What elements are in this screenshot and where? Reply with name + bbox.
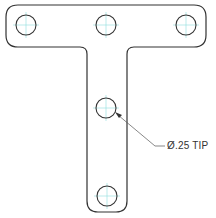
centerlines: [13, 12, 199, 209]
hole-callout: Ø.25 TIP: [167, 140, 208, 151]
technical-drawing: [0, 0, 216, 218]
leader-line: [115, 112, 165, 146]
